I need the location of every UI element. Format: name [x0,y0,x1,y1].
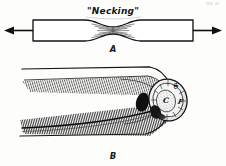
ductile-fracture-figure: "Necking" [0,0,226,166]
zone-label-c: C [163,96,169,105]
necking-label: "Necking" [87,6,139,16]
figure-root: "Necking" [0,0,226,166]
panel-b-letter: B [110,151,116,161]
corner-scan-mark [206,2,219,5]
panel-a-letter: A [109,44,117,54]
